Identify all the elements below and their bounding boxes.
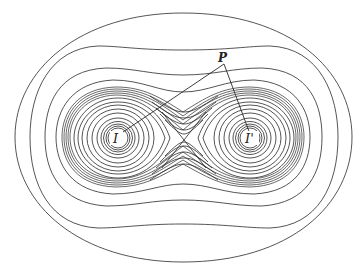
label-p: P <box>217 51 228 65</box>
label-i-prime: I' <box>244 131 254 146</box>
equipotential-diagram: P I I' <box>0 0 363 272</box>
diagram-svg: P I I' <box>0 0 363 272</box>
outer-curve-2 <box>30 46 338 228</box>
label-i: I <box>112 131 119 146</box>
outer-curve-3 <box>45 68 322 206</box>
